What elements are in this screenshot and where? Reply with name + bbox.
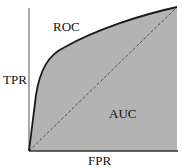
auc-label: AUC [109,106,136,121]
y-axis-label: TPR [3,72,27,87]
x-axis-label: FPR [88,153,111,167]
roc-label: ROC [53,19,80,34]
roc-diagram: ROC AUC TPR FPR [0,0,182,167]
